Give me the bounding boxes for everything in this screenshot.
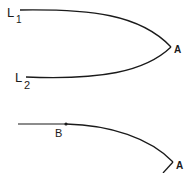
label-point-b: B xyxy=(55,127,62,139)
bottom-figure: B A xyxy=(18,122,183,173)
label-vertex-a-bottom: A xyxy=(176,160,183,171)
label-l2-subscript: 2 xyxy=(24,79,30,91)
label-l1-subscript: 1 xyxy=(16,14,22,25)
label-vertex-a-top: A xyxy=(174,44,181,55)
diagram-canvas: L 1 L 2 A B A xyxy=(0,0,193,173)
curve-b-to-a xyxy=(66,124,173,162)
label-l1: L xyxy=(7,5,14,20)
label-l2: L xyxy=(15,70,22,85)
curve-l2 xyxy=(26,47,171,78)
point-b-dot xyxy=(64,122,67,125)
top-figure: L 1 L 2 A xyxy=(7,5,181,91)
curve-l1 xyxy=(20,10,171,47)
segment-a-tail xyxy=(163,162,173,173)
